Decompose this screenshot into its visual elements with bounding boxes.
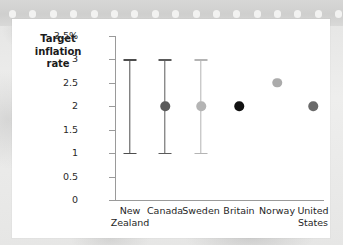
y-axis-tick-label: 0.5 <box>22 171 78 182</box>
perforation-hole <box>213 10 220 17</box>
y-axis-tick <box>109 200 115 201</box>
y-axis-tick <box>109 177 115 178</box>
x-axis-line <box>115 200 324 201</box>
errorbar-cap-lower <box>195 153 208 154</box>
perforation-hole <box>274 10 281 17</box>
perforation-hole <box>111 10 118 17</box>
y-axis-line <box>115 36 116 200</box>
y-axis-tick-label: 1.5 <box>22 124 78 135</box>
data-point-marker[interactable] <box>234 102 244 112</box>
errorbar-line <box>129 59 130 153</box>
y-axis-tick-label: 3.5% <box>22 30 78 41</box>
x-axis-category-label: United States <box>283 205 343 228</box>
perforation-hole <box>172 10 179 17</box>
y-axis-tick <box>109 36 115 37</box>
chart-card: Target inflation rate 00.511.522.533.5% … <box>12 19 330 238</box>
perforation-hole <box>254 10 261 17</box>
perforation-hole <box>29 10 36 17</box>
y-axis-tick <box>109 153 115 154</box>
perforation-hole <box>50 10 57 17</box>
perforation-hole <box>335 10 342 17</box>
perforation-hole <box>131 10 138 17</box>
data-point-marker[interactable] <box>160 102 170 112</box>
y-axis-tick-label: 3 <box>22 53 78 64</box>
data-point-marker[interactable] <box>272 78 282 88</box>
y-axis-tick-label: 0 <box>22 194 78 205</box>
y-axis-tick <box>109 83 115 84</box>
perforation-hole <box>294 10 301 17</box>
perforation-hole <box>9 10 16 17</box>
data-point-marker[interactable] <box>196 102 206 112</box>
errorbar-cap-lower <box>159 153 172 154</box>
chart-plot-area: Target inflation rate 00.511.522.533.5% … <box>12 19 330 238</box>
perforation-hole <box>315 10 322 17</box>
y-axis-tick-label: 2.5 <box>22 77 78 88</box>
perforation-hole <box>233 10 240 17</box>
perforation-hole <box>193 10 200 17</box>
errorbar-cap-lower <box>124 153 137 154</box>
y-axis-tick <box>109 130 115 131</box>
perforation-hole <box>91 10 98 17</box>
errorbar-cap-upper <box>195 59 208 60</box>
errorbar-cap-upper <box>124 59 137 60</box>
y-axis-tick-label: 1 <box>22 147 78 158</box>
perforation-hole <box>152 10 159 17</box>
data-point-marker[interactable] <box>308 102 318 112</box>
errorbar-cap-upper <box>159 59 172 60</box>
y-axis-tick <box>109 106 115 107</box>
perforation-hole <box>70 10 77 17</box>
y-axis-tick <box>109 59 115 60</box>
y-axis-tick-label: 2 <box>22 100 78 111</box>
